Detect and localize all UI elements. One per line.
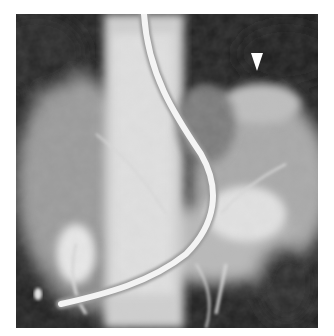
marker-spot: [34, 288, 42, 300]
radiograph-image: [16, 14, 318, 328]
